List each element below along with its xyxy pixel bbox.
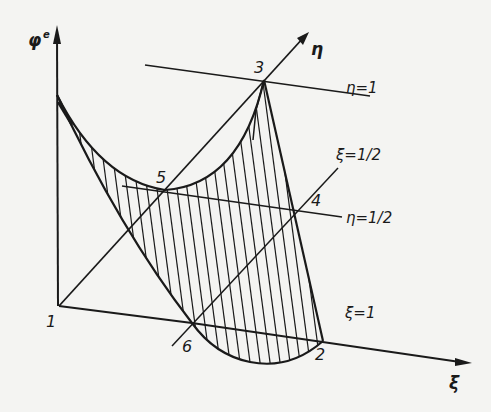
xi-half-label: ξ=1/2 [335, 146, 381, 164]
eta-half-label: η=1/2 [346, 209, 392, 227]
diagram-canvas: φ e η ξ η=1 η=1/2 ξ=1/2 ξ=1 1 2 3 4 5 [0, 0, 491, 412]
node-3-label: 3 [254, 58, 264, 77]
phi-axis-superscript: e [43, 29, 50, 40]
edge-3-2 [264, 80, 323, 341]
phi-axis-arrow-icon [53, 25, 61, 44]
surface-edges [57, 80, 323, 364]
xi-axis-arrow-icon [455, 358, 472, 366]
xi-axis [59, 306, 472, 366]
node-6-label: 6 [182, 337, 192, 356]
xi-1-label: ξ=1 [344, 304, 375, 322]
eta-axis [59, 32, 309, 306]
xi-axis-label: ξ [449, 373, 460, 393]
node-4-label: 4 [311, 191, 321, 210]
phi-axis-label: φ [28, 30, 41, 50]
node-5-label: 5 [156, 168, 166, 187]
eta-1-label: η=1 [346, 79, 378, 97]
phi-axis [53, 25, 61, 306]
edge-start-tick [58, 102, 72, 125]
eta-axis-label: η [311, 39, 323, 59]
node-1-label: 1 [46, 312, 56, 331]
node-2-label: 2 [315, 345, 325, 364]
